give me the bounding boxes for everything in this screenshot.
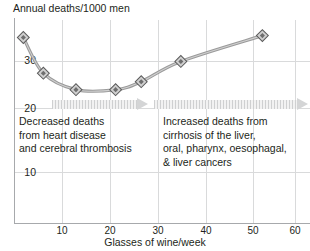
data-point-marker: [70, 84, 82, 96]
series-markers: [17, 30, 268, 96]
data-point-marker: [175, 56, 187, 68]
mortality-curve: [0, 0, 310, 251]
data-point-marker: [135, 76, 147, 88]
data-point-marker: [110, 84, 122, 96]
data-point-marker: [17, 32, 29, 44]
wine-mortality-chart: Annual deaths/1000 men 30 20 10 10 20 30…: [0, 0, 310, 251]
data-point-marker: [256, 30, 268, 42]
